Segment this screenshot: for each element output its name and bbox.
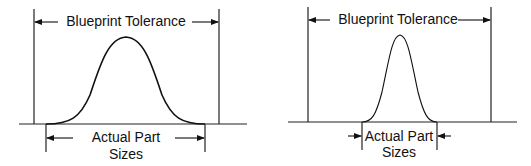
bell-curve-wide <box>46 37 205 124</box>
blueprint-tolerance-label: Blueprint Tolerance <box>66 13 186 29</box>
blueprint-tolerance-label: Blueprint Tolerance <box>338 11 458 27</box>
diagram-wide: Blueprint Tolerance Actual Part Sizes <box>19 9 247 162</box>
actual-part-label-line2: Sizes <box>382 144 416 160</box>
actual-part-label-line2: Sizes <box>109 146 143 162</box>
actual-part-label-line1: Actual Part <box>92 129 161 145</box>
bell-curve-narrow <box>362 35 437 122</box>
diagram-narrow: Blueprint Tolerance Actual Part Sizes <box>288 7 517 160</box>
tolerance-diagrams: Blueprint Tolerance Actual Part Sizes Bl… <box>0 0 531 166</box>
actual-part-label-line1: Actual Part <box>365 128 434 144</box>
